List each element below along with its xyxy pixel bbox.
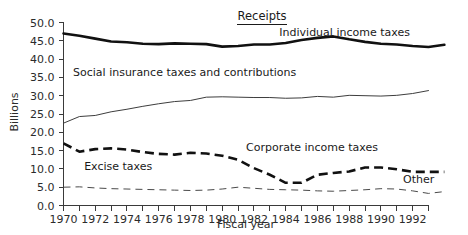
y-axis-ticks: [59, 23, 64, 206]
y-axis-tick-labels: 0.05.010.015.020.025.030.035.040.045.050…: [30, 17, 55, 213]
receipts-line-chart: 0.05.010.015.020.025.030.035.040.045.050…: [0, 0, 468, 235]
series-line-1: [64, 91, 429, 124]
y-tick-label: 40.0: [30, 53, 55, 66]
y-tick-label: 5.0: [37, 181, 55, 194]
series-line-3: [64, 187, 445, 194]
y-tick-label: 25.0: [30, 108, 55, 121]
y-tick-label: 45.0: [30, 35, 55, 48]
x-tick-label: 1990: [367, 213, 395, 226]
x-axis-ticks: [64, 206, 429, 211]
y-tick-label: 20.0: [30, 126, 55, 139]
x-tick-label: 1992: [399, 213, 427, 226]
y-tick-label: 0.0: [37, 200, 55, 213]
y-tick-label: 15.0: [30, 145, 55, 158]
x-tick-label: 1970: [50, 213, 78, 226]
x-tick-label: 1974: [113, 213, 141, 226]
x-tick-label: 1988: [335, 213, 363, 226]
x-axis-title: Fiscal year: [217, 218, 276, 231]
y-tick-label: 10.0: [30, 163, 55, 176]
x-tick-label: 1972: [81, 213, 109, 226]
x-tick-label: 1984: [272, 213, 300, 226]
series-inline-labels: Individual income taxesSocial insurance …: [73, 26, 435, 186]
series-label-1: Social insurance taxes and contributions: [73, 66, 296, 79]
y-axis-title: Billions: [8, 92, 21, 131]
y-tick-label: 50.0: [30, 17, 55, 30]
chart-title: Receipts: [238, 9, 287, 23]
series-label-3-secondary: Other: [403, 173, 435, 186]
x-tick-label: 1976: [145, 213, 173, 226]
series-label-3: Excise taxes: [84, 160, 152, 173]
chart-figure: 0.05.010.015.020.025.030.035.040.045.050…: [0, 0, 468, 235]
series-label-2: Corporate income taxes: [246, 141, 378, 154]
y-tick-label: 35.0: [30, 71, 55, 84]
x-tick-label: 1986: [303, 213, 331, 226]
y-tick-label: 30.0: [30, 90, 55, 103]
series-label-0: Individual income taxes: [279, 26, 410, 39]
x-tick-label: 1978: [176, 213, 204, 226]
